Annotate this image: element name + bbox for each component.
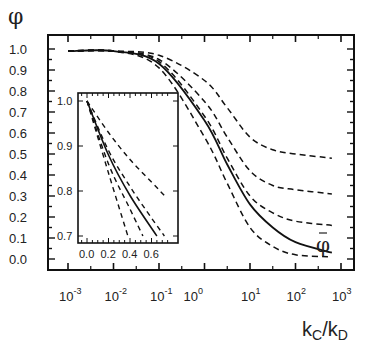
chart: φ 1.00.90.80.70.60.50.40.30.20.10.0 10-3… <box>0 0 366 350</box>
inset-x-tick-label: 0.6 <box>144 248 159 260</box>
x-tick-label: 101 <box>241 286 260 304</box>
y-tick-label: 0.5 <box>9 147 27 162</box>
x-axis-title: kC/kD <box>302 318 348 343</box>
y-tick-label: 1.0 <box>9 42 27 57</box>
y-tick-label: 0.0 <box>9 252 27 267</box>
y-tick-labels: 1.00.90.80.70.60.50.40.30.20.10.0 <box>9 42 27 267</box>
inset-x-tick-label: 0.0 <box>79 248 94 260</box>
y-tick-label: 0.2 <box>9 210 27 225</box>
y-axis-title: φ <box>8 4 23 29</box>
inset-x-tick-label: 0.4 <box>122 248 137 260</box>
curve-label-phi-bar: φ <box>316 233 330 257</box>
svg-text:φ: φ <box>316 233 330 257</box>
x-tick-label: 103 <box>332 286 351 304</box>
inset-y-tick-label: 1.0 <box>57 95 72 107</box>
x-tick-labels: 10-310-210-1100101102103 <box>59 286 351 304</box>
y-tick-label: 0.3 <box>9 189 27 204</box>
x-tick-label: 10-1 <box>150 286 172 304</box>
y-tick-label: 0.9 <box>9 63 27 78</box>
y-tick-label: 0.7 <box>9 105 27 120</box>
x-tick-label: 10-3 <box>59 286 81 304</box>
inset-x-tick-label: 0.2 <box>101 248 116 260</box>
y-tick-label: 0.4 <box>9 168 27 183</box>
inset-y-tick-label: 0.9 <box>57 140 72 152</box>
y-tick-label: 0.6 <box>9 126 27 141</box>
x-tick-label: 10-2 <box>105 286 127 304</box>
x-tick-label: 102 <box>287 286 306 304</box>
y-tick-label: 0.1 <box>9 231 27 246</box>
x-tick-label: 100 <box>184 286 203 304</box>
inset-y-tick-label: 0.8 <box>57 185 72 197</box>
inset-y-tick-label: 0.7 <box>57 230 72 242</box>
y-tick-label: 0.8 <box>9 84 27 99</box>
